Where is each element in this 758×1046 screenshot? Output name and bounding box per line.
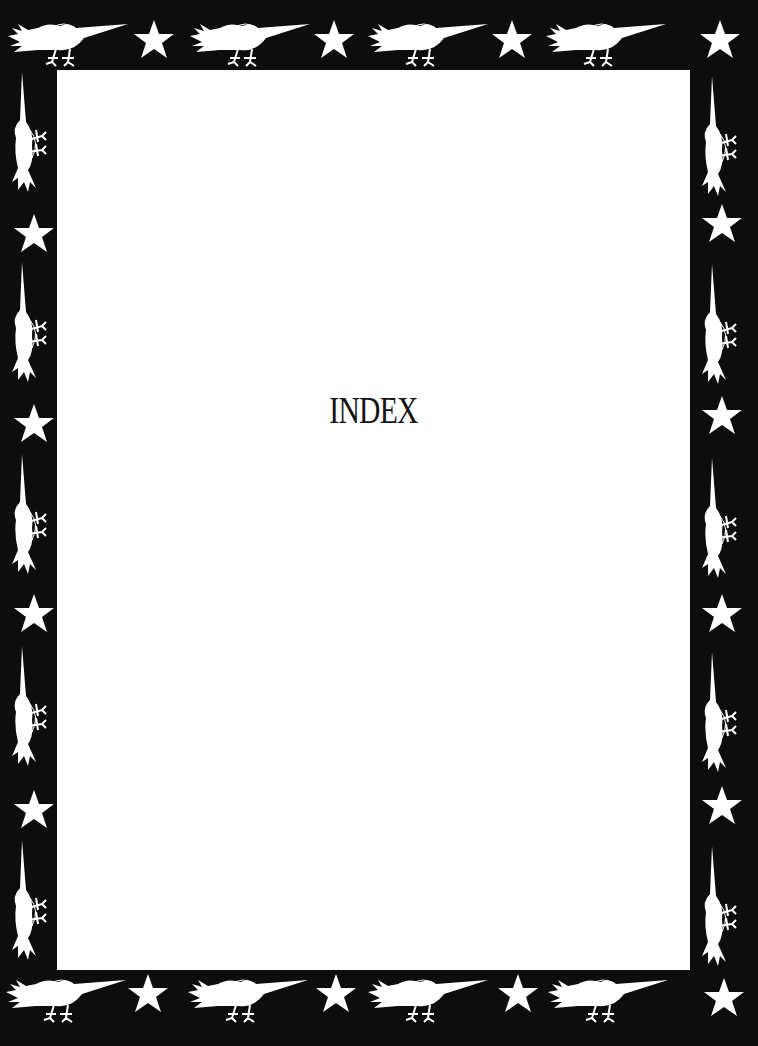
- bird-icon: [10, 840, 50, 962]
- star-icon: [704, 978, 744, 1018]
- star-icon: [498, 974, 538, 1014]
- bird-icon: [546, 22, 676, 70]
- star-icon: [702, 786, 742, 826]
- star-icon: [14, 404, 54, 444]
- bird-icon: [10, 646, 50, 768]
- star-icon: [702, 594, 742, 634]
- bird-icon: [368, 22, 498, 70]
- star-icon: [492, 20, 532, 60]
- decorative-border: INDEX: [0, 0, 758, 1046]
- star-icon: [316, 974, 356, 1014]
- bird-icon: [700, 458, 740, 580]
- page-content-area: INDEX: [57, 70, 690, 970]
- bird-icon: [700, 264, 740, 386]
- bird-icon: [700, 76, 740, 198]
- bird-icon: [10, 262, 50, 384]
- bird-icon: [8, 22, 138, 70]
- star-icon: [700, 20, 740, 60]
- bird-icon: [548, 978, 678, 1026]
- bird-icon: [700, 846, 740, 968]
- bird-icon: [368, 978, 498, 1026]
- page-title: INDEX: [127, 388, 621, 432]
- star-icon: [14, 594, 54, 634]
- bird-icon: [10, 454, 50, 576]
- star-icon: [314, 20, 354, 60]
- bird-icon: [10, 72, 50, 194]
- star-icon: [14, 214, 54, 254]
- bird-icon: [700, 652, 740, 774]
- star-icon: [702, 396, 742, 436]
- bird-icon: [188, 978, 318, 1026]
- star-icon: [14, 790, 54, 830]
- star-icon: [702, 204, 742, 244]
- star-icon: [128, 974, 168, 1014]
- bird-icon: [190, 22, 320, 70]
- bird-icon: [6, 978, 136, 1026]
- star-icon: [134, 20, 174, 60]
